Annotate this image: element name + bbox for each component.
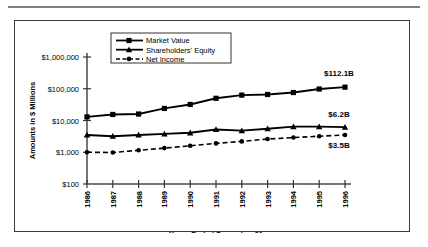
x-tick-label: 1990 (186, 191, 195, 208)
data-point (240, 139, 245, 144)
data-point (343, 133, 348, 138)
chart-legend: Market ValueShareholders' EquityNet Inco… (111, 33, 231, 64)
value-annotation: $3.5B (328, 141, 350, 150)
legend-label: Net Income (146, 55, 184, 64)
value-annotation: $6.2B (328, 110, 350, 119)
data-point (84, 114, 89, 119)
data-point (136, 148, 141, 153)
data-point (317, 134, 322, 139)
data-point (136, 111, 141, 116)
y-tick-label: $1,000,000 (41, 53, 79, 62)
data-point (162, 106, 167, 111)
legend-marker (126, 38, 131, 43)
data-point (265, 137, 270, 142)
data-point (265, 92, 270, 97)
series-2 (84, 123, 348, 138)
data-point (188, 102, 193, 107)
data-point (291, 135, 296, 140)
chart-frame: $100$1,000$10,000$100,000$1,000,00019861… (14, 20, 410, 232)
x-tick-label: 1994 (289, 190, 298, 208)
data-point (188, 143, 193, 148)
data-point (291, 90, 296, 95)
legend-label: Market Value (146, 36, 190, 45)
data-point (213, 96, 218, 101)
x-tick-label: 1996 (341, 191, 350, 208)
y-tick-label: $10,000 (52, 117, 79, 126)
top-divider (8, 6, 420, 8)
line-chart: $100$1,000$10,000$100,000$1,000,00019861… (15, 21, 411, 233)
x-tick-label: 1991 (212, 191, 221, 208)
y-tick-label: $1,000 (56, 148, 79, 157)
x-tick-label: 1989 (160, 191, 169, 208)
data-point (317, 86, 322, 91)
data-point (342, 85, 347, 90)
x-tick-label: 1988 (135, 191, 144, 208)
data-point (239, 93, 244, 98)
y-axis-title: Amounts in $ Millions (28, 82, 37, 160)
x-axis-title: Years Ended December 31 (169, 230, 263, 233)
x-tick-label: 1992 (238, 191, 247, 208)
chart-plot-area: $100$1,000$10,000$100,000$1,000,00019861… (15, 21, 411, 233)
series-line (87, 87, 345, 117)
data-point (85, 150, 90, 155)
data-point (162, 146, 167, 151)
y-tick-label: $100 (62, 180, 79, 189)
legend-marker (127, 57, 132, 62)
value-annotation: $112.1B (324, 69, 354, 78)
x-tick-label: 1986 (83, 191, 92, 208)
series-1 (84, 85, 347, 120)
data-point (110, 112, 115, 117)
data-point (111, 150, 116, 155)
y-tick-label: $100,000 (48, 85, 79, 94)
x-tick-label: 1987 (109, 191, 118, 208)
data-point (214, 141, 219, 146)
legend-label: Shareholders' Equity (146, 46, 215, 55)
x-tick-label: 1995 (315, 191, 324, 208)
x-tick-label: 1993 (264, 191, 273, 208)
